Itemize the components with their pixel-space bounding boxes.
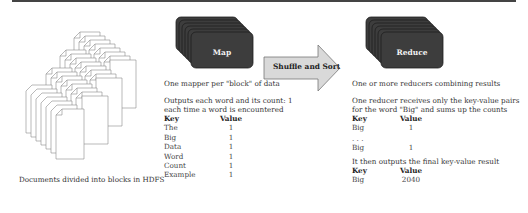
map-label: Map: [191, 48, 253, 57]
reduce-stack-icon: [360, 15, 460, 73]
documents-stack-icon: [20, 28, 145, 168]
table-row: Big1: [352, 143, 426, 152]
table-row: Big1: [352, 123, 426, 132]
table-row-ellipsis: . . .: [352, 134, 426, 143]
map-output-table: Key Value The1 Big1 Data1 Word1 Count1 E…: [164, 114, 246, 180]
table-header: Key Value: [352, 166, 426, 175]
map-description-line2: each time a word is encountered: [164, 105, 284, 114]
map-stack-icon: [170, 15, 270, 73]
shuffle-label: Shuffle and Sort: [273, 62, 340, 71]
table-row: The1: [164, 123, 246, 132]
reduce-caption: One or more reducers combining results: [352, 79, 500, 88]
table-header: Key Value: [164, 114, 246, 123]
documents-caption: Documents divided into blocks in HDFS: [19, 175, 164, 184]
table-row: Data1: [164, 142, 246, 151]
table-row: Count1: [164, 161, 246, 170]
table-row: Big2040: [352, 175, 426, 184]
reduce-input-table: Key Value Big1 . . . Big1: [352, 114, 426, 153]
top-rule: [12, 0, 516, 2]
map-description-line1: Outputs each word and its count: 1: [164, 96, 293, 105]
table-row: Big1: [164, 133, 246, 142]
reduce-result-caption: It then outputs the final key-value resu…: [352, 157, 499, 166]
table-row: Word1: [164, 152, 246, 161]
table-row: Example1: [164, 170, 246, 179]
reduce-description-line1: One reducer receives only the key-value …: [352, 96, 519, 105]
reduce-description-line2: for the word "Big" and sums up the count…: [352, 105, 507, 114]
reduce-output-table: Key Value Big2040: [352, 166, 426, 185]
reduce-label: Reduce: [381, 48, 443, 57]
table-header: Key Value: [352, 114, 426, 123]
